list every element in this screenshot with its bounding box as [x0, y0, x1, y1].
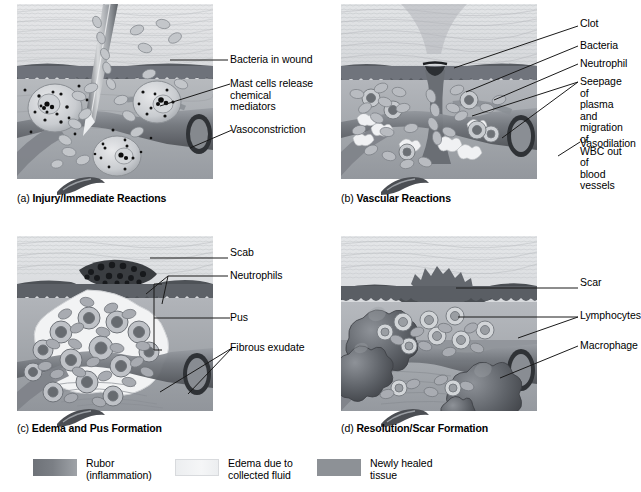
label-fibrous-exudate: Fibrous exudate — [230, 342, 305, 354]
panel-b-illustration — [341, 4, 537, 179]
label-clot: Clot — [580, 18, 598, 30]
label-bacteria: Bacteria — [580, 40, 618, 52]
label-vasodilation: Vasodilation — [580, 138, 636, 150]
caption-text-b: Vascular Reactions — [356, 192, 451, 204]
caption-letter-b: (b) — [341, 192, 354, 204]
label-vasoconstriction: Vasoconstriction — [230, 124, 305, 136]
legend-item-edema: Edema due to collected fluid — [175, 458, 293, 482]
caption-letter-a: (a) — [17, 192, 30, 204]
label-macrophage: Macrophage — [580, 340, 638, 352]
caption-panel-a: (a) Injury/Immediate Reactions — [17, 192, 166, 204]
panel-d-illustration — [341, 236, 537, 411]
legend-item-newly-healed: Newly healed tissue — [317, 458, 432, 482]
caption-text-a: Injury/Immediate Reactions — [32, 192, 166, 204]
legend-label-edema: Edema due to collected fluid — [228, 458, 293, 482]
panel-c-artwork — [17, 236, 213, 411]
caption-letter-d: (d) — [341, 422, 354, 434]
label-lymphocytes: Lymphocytes — [580, 310, 641, 322]
caption-letter-c: (c) — [17, 422, 29, 434]
panel-c-illustration — [17, 236, 213, 411]
legend-swatch-edema — [175, 459, 219, 476]
caption-panel-d: (d) Resolution/Scar Formation — [341, 422, 488, 434]
legend-item-rubor: Rubor (inflammation) — [33, 458, 152, 482]
legend-swatch-rubor — [33, 459, 77, 476]
legend-swatch-newly-healed — [317, 459, 361, 476]
panel-a: Bacteria in wound Mast cells release che… — [0, 0, 315, 224]
legend-label-newly-healed: Newly healed tissue — [370, 458, 432, 482]
label-scar: Scar — [580, 277, 601, 289]
panel-d: Scar Lymphocytes Macrophage (d) Resoluti… — [314, 228, 629, 438]
panel-b: Clot Bacteria Neutrophil Seepage of plas… — [314, 0, 629, 224]
panel-c: Scab Neutrophils Pus Fibrous exudate (c)… — [0, 228, 315, 438]
caption-text-c: Edema and Pus Formation — [32, 422, 162, 434]
caption-text-d: Resolution/Scar Formation — [356, 422, 488, 434]
label-scab: Scab — [230, 247, 254, 259]
legend: Rubor (inflammation) Edema due to collec… — [0, 448, 629, 492]
label-neutrophils: Neutrophils — [230, 270, 283, 282]
panel-a-illustration — [17, 4, 213, 179]
panel-b-artwork — [341, 4, 537, 179]
panel-a-artwork — [17, 4, 213, 179]
label-pus: Pus — [230, 312, 248, 324]
label-bacteria-in-wound: Bacteria in wound — [230, 54, 313, 66]
panel-d-artwork — [341, 236, 537, 411]
leader-vasodilation — [558, 140, 582, 158]
legend-label-rubor: Rubor (inflammation) — [86, 458, 152, 482]
caption-panel-b: (b) Vascular Reactions — [341, 192, 451, 204]
label-neutrophil: Neutrophil — [580, 58, 627, 70]
caption-panel-c: (c) Edema and Pus Formation — [17, 422, 162, 434]
label-mast-cells: Mast cells release chemical mediators — [230, 78, 315, 113]
label-seepage: Seepage of plasma and migration of WBC o… — [580, 76, 629, 192]
